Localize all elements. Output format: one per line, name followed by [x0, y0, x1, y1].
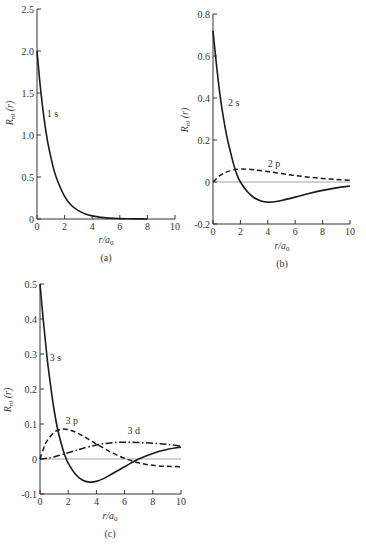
x-tick-label: 6 — [293, 226, 298, 237]
x-tick-label: 10 — [176, 496, 186, 507]
x-axis-label-c: r/a0 — [102, 510, 118, 523]
y-tick-label: -0.1 — [21, 489, 37, 500]
curve-1s — [37, 51, 147, 219]
panel-caption-c: (c) — [104, 528, 115, 540]
x-tick-label: 0 — [35, 221, 40, 232]
y-axis-label-c: Rnl (r) — [2, 387, 15, 413]
y-tick-label: 0.2 — [198, 135, 211, 146]
chart-panel-c: -0.100.10.20.30.40.502468103 s3 p3 d r/a… — [2, 279, 186, 541]
chart-panel-b: -0.200.20.40.60.802468102 s2 p r/a0 (b) … — [179, 9, 355, 271]
curve-label: 1 s — [47, 108, 59, 119]
y-tick-label: -0.2 — [194, 219, 210, 230]
curve-2p — [213, 169, 350, 182]
curve-3s — [40, 284, 181, 482]
x-tick-label: 4 — [265, 226, 270, 237]
y-tick-label: 0.4 — [25, 314, 38, 325]
curve-label: 2 s — [228, 97, 240, 108]
panel-caption-b: (b) — [276, 258, 288, 270]
x-axis-label-a: r/a0 — [98, 234, 114, 247]
curve-label: 3 s — [50, 352, 62, 363]
y-tick-label: 0.5 — [25, 279, 38, 290]
y-tick-label: 2.0 — [22, 46, 35, 57]
radial-wavefunction-figure: 00.51.01.52.02.502468101 s r/a0 (a) Rnl … — [0, 0, 366, 552]
x-tick-label: 10 — [345, 226, 355, 237]
y-tick-label: 0.3 — [25, 349, 38, 360]
y-tick-label: 0.6 — [198, 51, 211, 62]
x-tick-label: 8 — [145, 221, 150, 232]
y-tick-label: 0 — [205, 177, 210, 188]
x-tick-label: 10 — [170, 221, 180, 232]
x-tick-label: 0 — [211, 226, 216, 237]
y-tick-label: 2.5 — [22, 4, 35, 15]
y-tick-label: 0.5 — [22, 172, 35, 183]
y-tick-label: 1.5 — [22, 88, 35, 99]
chart-panel-a: 00.51.01.52.02.502468101 s r/a0 (a) Rnl … — [4, 4, 180, 265]
y-tick-label: 0.1 — [25, 419, 38, 430]
x-tick-label: 2 — [62, 221, 67, 232]
curve-label: 3 p — [65, 415, 78, 426]
panel-caption-a: (a) — [100, 252, 111, 264]
plot-area-b: -0.200.20.40.60.802468102 s2 p — [194, 9, 355, 238]
x-axis-label-b: r/a0 — [274, 240, 290, 253]
curve-label: 3 d — [127, 425, 140, 436]
x-tick-label: 8 — [150, 496, 155, 507]
plot-area-a: 00.51.01.52.02.502468101 s — [22, 4, 181, 233]
x-tick-label: 6 — [122, 496, 127, 507]
y-tick-label: 0 — [29, 214, 34, 225]
x-tick-label: 4 — [90, 221, 95, 232]
curve-2s — [213, 31, 350, 202]
x-tick-label: 8 — [320, 226, 325, 237]
x-tick-label: 6 — [117, 221, 122, 232]
y-tick-label: 0 — [32, 454, 37, 465]
x-tick-label: 2 — [66, 496, 71, 507]
curve-label: 2 p — [268, 158, 281, 169]
y-tick-label: 1.0 — [22, 130, 35, 141]
x-tick-label: 0 — [38, 496, 43, 507]
y-axis-label-b: Rnl (r) — [179, 107, 192, 133]
y-tick-label: 0.8 — [198, 9, 211, 20]
y-axis-label-a: Rnl (r) — [4, 100, 17, 126]
x-tick-label: 4 — [94, 496, 99, 507]
x-tick-label: 2 — [238, 226, 243, 237]
curve-3p — [40, 429, 181, 467]
y-tick-label: 0.2 — [25, 384, 38, 395]
y-tick-label: 0.4 — [198, 93, 211, 104]
plot-area-c: -0.100.10.20.30.40.502468103 s3 p3 d — [21, 279, 186, 508]
